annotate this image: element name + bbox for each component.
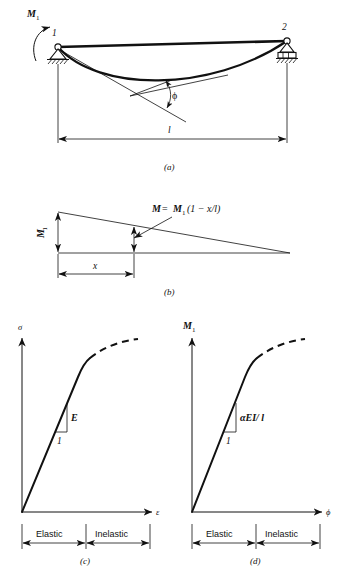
moment-ordinate-at-x [134, 217, 172, 252]
d-y-axis-label-subscript: 1 [192, 326, 196, 334]
panel-b: M 1 M = M 1 (1 − x/l) x (b) [35, 203, 290, 297]
moment-diagram-label-m1-subscript: 1 [41, 227, 49, 231]
distance-dimension-x: x [58, 254, 134, 278]
c-x-axis-label: ε [156, 507, 160, 517]
c-curve-dashed [90, 339, 138, 358]
equation-equals: = [162, 203, 168, 214]
panel-a: M 1 1 2 [26, 8, 298, 172]
tangent-line-left [60, 50, 186, 122]
moment-ordinate-m1: M 1 [35, 213, 58, 252]
angle-phi-label: ϕ [172, 90, 177, 101]
d-curve-solid [192, 358, 257, 512]
c-region-bars: Elastic Inelastic [22, 524, 150, 549]
support-hatching-left [48, 60, 68, 64]
panel-caption-c: (c) [80, 556, 90, 566]
c-slope-label: E [70, 412, 78, 423]
distance-label-x: x [92, 261, 98, 271]
d-region-label-elastic: Elastic [206, 529, 233, 539]
roller-box-right [278, 53, 296, 59]
beam-chord [58, 41, 287, 47]
moment-label-m1-subscript: 1 [36, 14, 40, 22]
moment-arrow-m1 [34, 27, 50, 61]
equation-lhs: M [151, 203, 162, 214]
tangent-construction-lines [60, 50, 228, 122]
d-x-axis-label: ϕ [326, 507, 331, 517]
span-dimension-l: l [58, 63, 287, 143]
node-label-1: 1 [52, 28, 57, 38]
panel-c: σ ε E 1 Elastic Inelastic (c) [18, 322, 160, 566]
angle-phi-arrow [166, 81, 171, 108]
c-region-label-inelastic: Inelastic [95, 529, 129, 539]
figure-canvas: M 1 1 2 [0, 0, 344, 586]
node-label-2: 2 [282, 22, 287, 32]
angle-phi-arc [166, 81, 171, 108]
panel-caption-b: (b) [164, 287, 175, 297]
moment-equation-label: M = M 1 (1 − x/l) [151, 203, 221, 217]
equation-rhs-paren: (1 − x/l) [187, 203, 221, 215]
c-y-axis-label: σ [18, 322, 23, 332]
equation-rhs-subscript: 1 [182, 209, 186, 217]
moment-equation-leader [134, 217, 172, 238]
d-slope-triangle: αEI/ l 1 [224, 403, 264, 446]
d-region-bars: Elastic Inelastic [192, 524, 320, 549]
panel-caption-d: (d) [250, 556, 261, 566]
d-run-label: 1 [226, 436, 231, 446]
panel-caption-a: (a) [164, 162, 175, 172]
c-run-label: 1 [57, 436, 62, 446]
c-region-label-elastic: Elastic [36, 529, 63, 539]
d-region-label-inelastic: Inelastic [265, 529, 299, 539]
d-curve-dashed [257, 339, 305, 358]
panel-d: M 1 ϕ αEI/ l 1 Elastic Inelastic (d) [182, 320, 331, 566]
support-hatching-right [277, 59, 297, 63]
engineering-figure: M 1 1 2 [0, 0, 344, 586]
moment-diagram-hypotenuse [58, 212, 290, 253]
d-slope-label: αEI/ l [240, 412, 264, 423]
c-curve-solid [22, 358, 90, 512]
span-label-l: l [168, 125, 171, 135]
